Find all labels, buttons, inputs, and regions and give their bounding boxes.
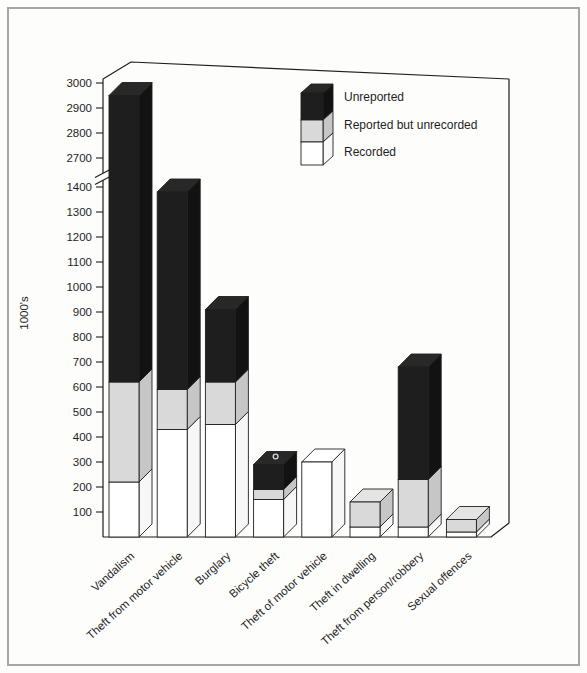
y-tick-label: 2800 [66, 127, 92, 139]
bar-side-recorded [235, 412, 248, 538]
bars: VandalismTheft from motor vehicleBurglar… [84, 83, 489, 648]
y-tick-label: 300 [73, 456, 92, 468]
bar-side-unreported [428, 354, 441, 480]
bar-front-reported-but-unrecorded [398, 480, 428, 528]
bar-front-unreported [109, 96, 139, 383]
legend: UnreportedReported but unrecordedRecorde… [301, 84, 477, 165]
bar-burglary: Burglary [193, 297, 249, 588]
legend-label-reported-but-unrecorded: Reported but unrecorded [344, 118, 477, 132]
bar-side-unreported [187, 179, 200, 390]
category-label: Theft from person/robbery [319, 549, 426, 647]
bar-front-recorded [302, 462, 332, 537]
bar-front-reported-but-unrecorded [254, 490, 284, 500]
bar-front-recorded [205, 425, 235, 538]
category-label: Burglary [193, 549, 233, 587]
bar-front-recorded [446, 532, 476, 537]
y-axis-title: 1000's [18, 296, 30, 330]
y-tick-label: 600 [73, 381, 92, 393]
y-tick-label: 900 [73, 306, 92, 318]
y-tick-label: 400 [73, 431, 92, 443]
bar-front-reported-but-unrecorded [205, 382, 235, 425]
bar-front-unreported [205, 310, 235, 383]
y-tick-label: 200 [73, 481, 92, 493]
category-label: Theft of motor vehicle [239, 550, 329, 633]
bar-front-unreported [157, 192, 187, 390]
legend-key-front [301, 120, 323, 142]
y-tick-label: 1100 [67, 256, 92, 268]
y-tick-label: 800 [73, 331, 92, 343]
category-label: Vandalism [89, 550, 136, 594]
bar-front-recorded [109, 482, 139, 537]
bar-side-recorded [187, 417, 200, 538]
bar-front-recorded [350, 527, 380, 537]
legend-key-front [301, 93, 323, 120]
figure-page: 1002003004005006007008009001000110012001… [0, 0, 587, 673]
legend-label-unreported: Unreported [344, 90, 404, 104]
legend-label-recorded: Recorded [344, 145, 396, 159]
y-tick-label: 700 [73, 356, 92, 368]
bar-front-reported-but-unrecorded [350, 502, 380, 527]
y-axis-ticks: 1002003004005006007008009001000110012001… [66, 77, 103, 518]
y-tick-label: 3000 [66, 77, 92, 89]
bar-front-unreported [254, 465, 284, 490]
bar-side-reported-but-unrecorded [139, 369, 152, 482]
bar-front-unreported [398, 367, 428, 480]
y-tick-label: 2900 [66, 102, 92, 114]
bar-side-recorded [332, 449, 345, 537]
crime-levels-3d-stacked-bar-chart: 1002003004005006007008009001000110012001… [0, 0, 587, 673]
bar-vandalism: Vandalism [89, 83, 152, 594]
y-tick-label: 1300 [66, 206, 92, 218]
y-tick-label: 1000 [66, 281, 92, 293]
bar-front-recorded [254, 500, 284, 538]
category-label: Theft from motor vehicle [84, 550, 184, 642]
bar-front-recorded [157, 430, 187, 538]
y-tick-label: 2700 [66, 152, 92, 164]
y-tick-label: 100 [73, 506, 92, 518]
legend-key-front [301, 142, 323, 165]
bar-front-reported-but-unrecorded [109, 382, 139, 482]
bar-side-unreported [235, 297, 248, 383]
bar-side-unreported [139, 83, 152, 383]
bar-front-recorded [398, 527, 428, 537]
bar-front-reported-but-unrecorded [446, 520, 476, 533]
y-tick-label: 1200 [66, 231, 92, 243]
bar-front-reported-but-unrecorded [157, 390, 187, 430]
y-tick-label: 1400 [66, 181, 92, 193]
figure-border [8, 8, 579, 665]
y-tick-label: 500 [73, 406, 92, 418]
